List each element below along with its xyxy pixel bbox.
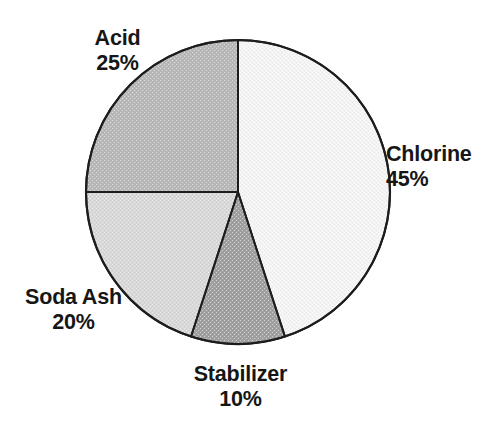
pie-label-chlorine-percent: 45%: [386, 167, 491, 192]
pie-label-soda-ash-percent: 20%: [6, 310, 141, 335]
pie-label-stabilizer-name: Stabilizer: [168, 362, 313, 387]
pie-chart: Acid 25% Chlorine 45% Soda Ash 20% Stabi…: [0, 0, 491, 431]
pie-label-stabilizer: Stabilizer 10%: [168, 362, 313, 412]
pie-label-acid-percent: 25%: [60, 51, 175, 76]
pie-label-chlorine-name: Chlorine: [386, 142, 491, 167]
pie-label-chlorine: Chlorine 45%: [386, 142, 491, 192]
pie-label-stabilizer-percent: 10%: [168, 387, 313, 412]
pie-label-acid: Acid 25%: [60, 26, 175, 76]
pie-label-soda-ash: Soda Ash 20%: [6, 285, 141, 335]
pie-label-acid-name: Acid: [60, 26, 175, 51]
pie-label-soda-ash-name: Soda Ash: [6, 285, 141, 310]
